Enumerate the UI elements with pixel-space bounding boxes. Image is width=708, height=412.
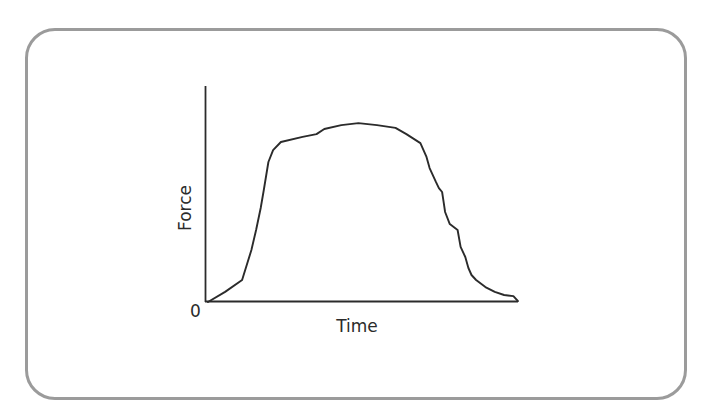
x-axis-label: Time xyxy=(336,318,378,335)
force-curve xyxy=(208,123,518,302)
force-time-chart xyxy=(0,0,708,412)
origin-label: 0 xyxy=(190,303,201,320)
y-axis-label: Force xyxy=(177,185,194,231)
